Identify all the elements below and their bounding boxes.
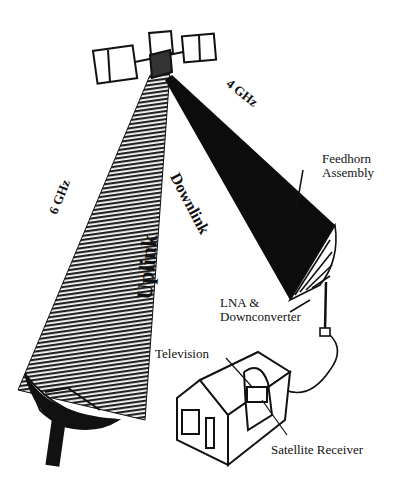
feedhorn-label-line1: Feedhorn	[322, 152, 374, 166]
diagram-canvas	[0, 0, 404, 501]
television-label: Television	[155, 347, 209, 361]
lna-label-line1: LNA &	[220, 296, 301, 310]
lna-label: LNA & Downconverter	[220, 296, 301, 325]
feedhorn-label-line2: Assembly	[322, 166, 374, 180]
satellite-icon	[93, 31, 216, 84]
feedhorn-label: Feedhorn Assembly	[322, 152, 374, 181]
lna-label-line2: Downconverter	[220, 310, 301, 324]
satellite-receiver-label: Satellite Receiver	[271, 443, 363, 457]
